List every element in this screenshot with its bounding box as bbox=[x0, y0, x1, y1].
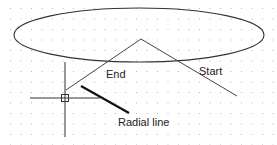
radial-line-label: Radial line bbox=[118, 117, 169, 128]
ellipse bbox=[14, 8, 264, 62]
end-label: End bbox=[106, 69, 126, 80]
radial-line bbox=[81, 86, 129, 113]
start-label: Start bbox=[199, 66, 222, 77]
